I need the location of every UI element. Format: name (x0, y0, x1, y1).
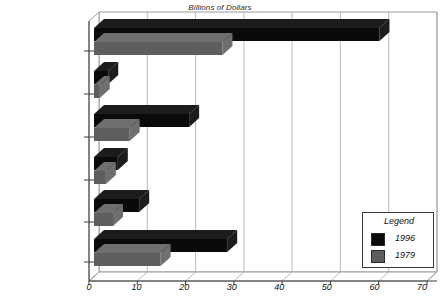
category-axis: PoliceCourtsProsecutionCorrectionsPublic… (0, 0, 84, 300)
value-tick-50: 50 (315, 282, 339, 292)
value-tick-30: 30 (220, 282, 244, 292)
value-tick-40: 40 (267, 282, 291, 292)
value-tick-0: 0 (77, 282, 101, 292)
legend-item-1996[interactable]: 1996 (371, 232, 431, 247)
value-tick-70: 70 (410, 282, 434, 292)
legend: Legend 1996 1979 (362, 212, 434, 268)
value-tick-10: 10 (125, 282, 149, 292)
legend-label-1979: 1979 (395, 250, 415, 260)
bar-chart: Billions of Dollars (0, 0, 440, 300)
legend-item-1979[interactable]: 1979 (371, 249, 431, 264)
legend-title: Legend (363, 216, 435, 226)
value-tick-20: 20 (172, 282, 196, 292)
legend-swatch-1996 (371, 233, 385, 246)
bar-top-face (94, 33, 232, 42)
legend-label-1996: 1996 (395, 233, 415, 243)
legend-swatch-1979 (371, 250, 385, 263)
bar-front-face (94, 42, 222, 55)
value-tick-60: 60 (362, 282, 386, 292)
